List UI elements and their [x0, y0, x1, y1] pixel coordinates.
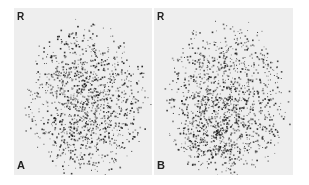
panel-a-label: A: [17, 160, 25, 171]
panel-a: R A: [14, 8, 152, 175]
panel-b-orientation-label: R: [157, 12, 164, 22]
panel-a-scan-image: [14, 8, 152, 175]
panel-b-label: B: [157, 160, 165, 171]
panel-a-orientation-label: R: [17, 12, 24, 22]
scintigraphy-figure: R A R B: [0, 0, 309, 185]
panel-b: R B: [154, 8, 293, 175]
panel-b-scan-image: [154, 8, 293, 175]
